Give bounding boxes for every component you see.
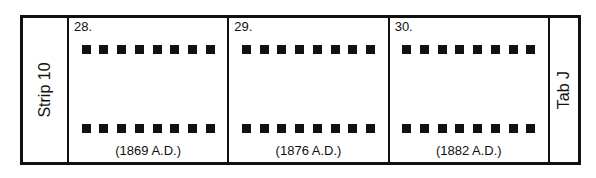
frame-30: 30. (1882 A.D.) [390, 18, 548, 162]
sprocket-hole-icon [402, 124, 411, 133]
frame-number: 30. [395, 19, 413, 34]
frame-number: 29. [234, 19, 252, 34]
sprocket-hole-icon [99, 45, 108, 54]
sprocket-row-bottom [229, 124, 387, 133]
sprocket-row-top [390, 45, 548, 54]
frame-date: (1869 A.D.) [69, 143, 227, 158]
sprocket-hole-icon [509, 45, 518, 54]
tab-label-cell: Tab J [548, 18, 578, 162]
sprocket-hole-icon [473, 124, 482, 133]
sprocket-hole-icon [295, 124, 304, 133]
sprocket-hole-icon [331, 124, 340, 133]
sprocket-hole-icon [366, 124, 375, 133]
sprocket-hole-icon [420, 45, 429, 54]
sprocket-hole-icon [153, 124, 162, 133]
sprocket-hole-icon [170, 45, 179, 54]
sprocket-hole-icon [135, 124, 144, 133]
sprocket-hole-icon [206, 124, 215, 133]
sprocket-hole-icon [526, 45, 535, 54]
sprocket-hole-icon [348, 45, 357, 54]
sprocket-hole-icon [295, 45, 304, 54]
tab-label: Tab J [555, 71, 573, 109]
sprocket-hole-icon [509, 124, 518, 133]
sprocket-hole-icon [99, 124, 108, 133]
frame-number: 28. [74, 19, 92, 34]
sprocket-hole-icon [188, 45, 197, 54]
strip-label: Strip 10 [36, 62, 54, 117]
sprocket-hole-icon [526, 124, 535, 133]
sprocket-row-bottom [69, 124, 227, 133]
sprocket-hole-icon [117, 124, 126, 133]
sprocket-hole-icon [473, 45, 482, 54]
sprocket-hole-icon [260, 45, 269, 54]
frame-date: (1882 A.D.) [390, 143, 548, 158]
sprocket-hole-icon [491, 124, 500, 133]
sprocket-hole-icon [420, 124, 429, 133]
sprocket-hole-icon [438, 124, 447, 133]
sprocket-hole-icon [331, 45, 340, 54]
sprocket-hole-icon [455, 45, 464, 54]
sprocket-hole-icon [366, 45, 375, 54]
strip-label-cell: Strip 10 [23, 18, 69, 162]
sprocket-hole-icon [135, 45, 144, 54]
sprocket-hole-icon [438, 45, 447, 54]
sprocket-hole-icon [277, 45, 286, 54]
sprocket-hole-icon [313, 124, 322, 133]
sprocket-hole-icon [153, 45, 162, 54]
sprocket-hole-icon [277, 124, 286, 133]
sprocket-hole-icon [242, 124, 251, 133]
sprocket-hole-icon [170, 124, 179, 133]
sprocket-hole-icon [82, 45, 91, 54]
film-strip: Strip 10 28. (1869 A.D.) 29. (1876 A.D.)… [20, 15, 581, 165]
sprocket-hole-icon [260, 124, 269, 133]
sprocket-hole-icon [313, 45, 322, 54]
sprocket-hole-icon [206, 45, 215, 54]
sprocket-hole-icon [117, 45, 126, 54]
sprocket-hole-icon [348, 124, 357, 133]
sprocket-hole-icon [188, 124, 197, 133]
frame-date: (1876 A.D.) [229, 143, 387, 158]
sprocket-row-top [229, 45, 387, 54]
frame-28: 28. (1869 A.D.) [69, 18, 229, 162]
sprocket-row-top [69, 45, 227, 54]
sprocket-hole-icon [491, 45, 500, 54]
sprocket-hole-icon [242, 45, 251, 54]
sprocket-hole-icon [455, 124, 464, 133]
sprocket-row-bottom [390, 124, 548, 133]
sprocket-hole-icon [82, 124, 91, 133]
frame-29: 29. (1876 A.D.) [229, 18, 389, 162]
sprocket-hole-icon [402, 45, 411, 54]
